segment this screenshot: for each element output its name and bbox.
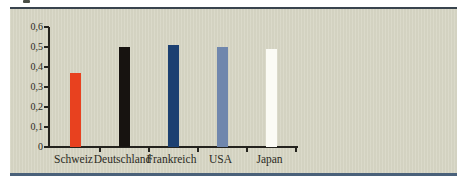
y-axis-tick — [44, 106, 49, 107]
y-axis-tick-label: 0 — [17, 142, 43, 152]
y-axis-tick — [44, 66, 49, 67]
y-axis-tick — [44, 126, 49, 127]
x-axis-tick — [246, 147, 247, 152]
x-axis-tick — [148, 147, 149, 152]
y-axis-tick — [44, 146, 49, 147]
y-axis-tick — [44, 26, 49, 27]
bar-japan — [266, 49, 277, 147]
scan-artifact-mark — [23, 0, 30, 3]
y-axis-tick — [44, 46, 49, 47]
y-axis-tick-label: 0,4 — [17, 62, 43, 72]
y-axis-tick-label: 0,5 — [17, 42, 43, 52]
x-axis-tick — [197, 147, 198, 152]
category-label-schweiz: Schweiz — [54, 153, 93, 165]
bar-frankreich — [168, 45, 179, 147]
y-axis-tick — [44, 86, 49, 87]
category-label-usa: USA — [209, 153, 232, 165]
bar-deutschland — [119, 47, 130, 147]
bar-usa — [217, 47, 228, 147]
bar-schweiz — [70, 73, 81, 147]
x-axis-tick — [295, 147, 296, 152]
category-label-deutschland: Deutschland — [94, 153, 151, 165]
category-label-frankreich: Frankreich — [147, 153, 197, 165]
y-axis-tick-label: 0,3 — [17, 82, 43, 92]
y-axis-tick-label: 0,1 — [17, 122, 43, 132]
x-axis-tick — [99, 147, 100, 152]
figure-scan: 0,60,50,40,30,20,10SchweizDeutschlandFra… — [0, 0, 457, 186]
y-axis-tick-label: 0,2 — [17, 102, 43, 112]
category-label-japan: Japan — [256, 153, 282, 165]
y-axis-tick-label: 0,6 — [17, 22, 43, 32]
